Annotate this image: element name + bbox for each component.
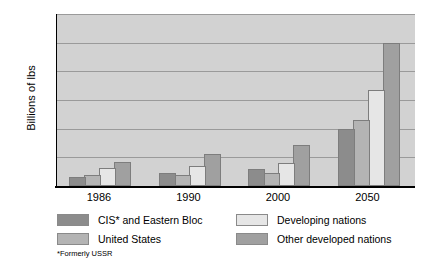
legend-item-cis-eastern-bloc: CIS* and Eastern Bloc	[57, 214, 236, 226]
legend-label: CIS* and Eastern Bloc	[98, 214, 202, 226]
plot-area	[56, 14, 415, 186]
bar	[263, 173, 280, 186]
legend-item-united-states: United States	[57, 233, 236, 245]
legend-swatch-icon	[236, 214, 268, 226]
bar	[248, 169, 265, 186]
legend-swatch-icon	[236, 233, 268, 245]
x-axis-line	[55, 186, 415, 188]
x-tick-label: 1990	[149, 191, 229, 203]
bar	[338, 129, 355, 186]
bar	[69, 177, 86, 186]
bar	[204, 154, 221, 186]
legend-label: United States	[98, 233, 161, 245]
legend-row: CIS* and Eastern Bloc Developing nations	[57, 210, 417, 229]
bar	[353, 120, 370, 186]
bar-group	[159, 14, 221, 186]
bar	[368, 90, 385, 186]
bar-group	[338, 14, 400, 186]
legend-label: Developing nations	[277, 214, 366, 226]
bar	[114, 162, 131, 186]
legend-item-other-developed-nations: Other developed nations	[236, 233, 391, 245]
bar	[84, 175, 101, 186]
bar	[174, 175, 191, 186]
legend-footnote: *Formerly USSR	[57, 249, 112, 258]
bar	[293, 145, 310, 186]
x-tick-label: 2050	[328, 191, 408, 203]
x-tick-label: 2000	[238, 191, 318, 203]
y-axis-title: Billions of lbs	[25, 28, 37, 168]
bar	[99, 168, 116, 186]
legend-swatch-icon	[57, 233, 89, 245]
legend-label: Other developed nations	[277, 233, 391, 245]
bar	[278, 163, 295, 187]
bar-group	[248, 14, 310, 186]
bar-chart: Billions of lbs 0123456 1986199020002050…	[0, 0, 431, 264]
bar	[189, 166, 206, 186]
legend-row: United States Other developed nations	[57, 229, 417, 248]
legend-item-developing-nations: Developing nations	[236, 214, 366, 226]
bar	[383, 43, 400, 186]
x-tick-label: 1986	[59, 191, 139, 203]
bar-group	[69, 14, 131, 186]
legend: CIS* and Eastern Bloc Developing nations…	[57, 210, 417, 248]
bar	[159, 173, 176, 186]
legend-swatch-icon	[57, 214, 89, 226]
